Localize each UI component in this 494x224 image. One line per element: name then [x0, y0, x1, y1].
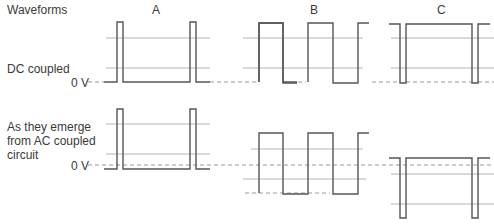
waveform-diagram [0, 0, 494, 224]
ac-row [88, 109, 494, 218]
dc-row [88, 22, 494, 83]
waveform-a-dc [104, 22, 210, 82]
waveform-b-dc [259, 23, 297, 82]
waveform-c-ac [389, 158, 490, 218]
waveform-c-dc [389, 24, 490, 83]
waveform-a-ac [104, 109, 210, 169]
waveform-b-ac [259, 133, 369, 194]
